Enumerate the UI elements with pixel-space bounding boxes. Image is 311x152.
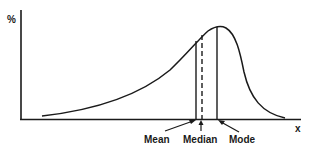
x-axis-label: x bbox=[295, 123, 301, 134]
median-label: Median bbox=[183, 134, 217, 145]
mean-pointer bbox=[165, 120, 196, 131]
y-axis-label: % bbox=[7, 14, 16, 25]
mode-pointer bbox=[218, 120, 239, 132]
distribution-curve bbox=[42, 27, 285, 118]
skewed-distribution-diagram: % x Mean Median Mode bbox=[0, 0, 311, 152]
mean-label: Mean bbox=[144, 134, 170, 145]
median-pointer bbox=[199, 120, 204, 131]
mode-label: Mode bbox=[229, 134, 256, 145]
